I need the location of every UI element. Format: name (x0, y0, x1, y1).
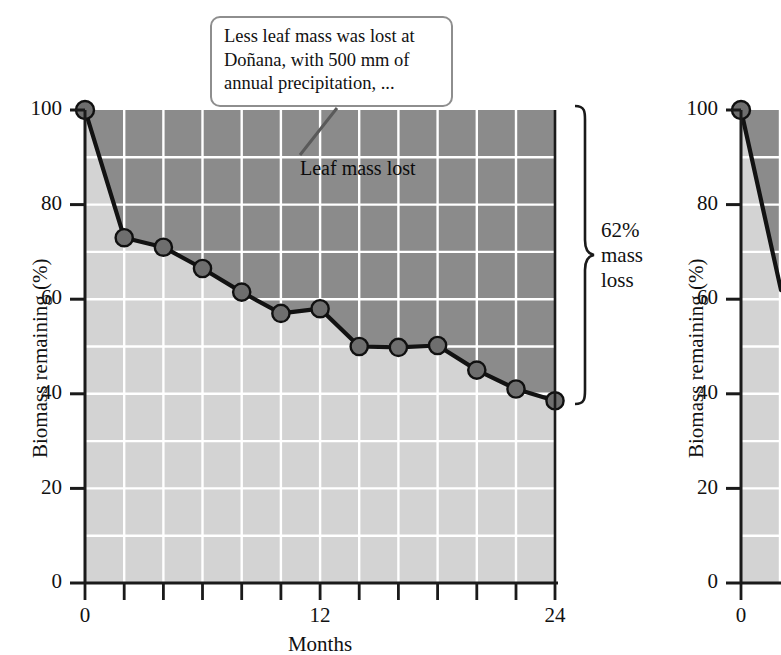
mass-loss-brace-label: 62% mass loss (601, 218, 643, 292)
x-tick-label-24: 24 (530, 605, 580, 626)
data-point (155, 239, 172, 256)
x-axis-ticks (85, 583, 555, 600)
x-axis-title: Months (255, 632, 385, 655)
callout-line-1: Less leaf mass was lost at (224, 25, 439, 49)
brace-label-line-1: 62% (601, 218, 643, 243)
y-axis-title: Biomass remaining (%) (684, 259, 709, 458)
data-point (468, 362, 485, 379)
x-tick-label-12: 12 (295, 605, 345, 626)
callout-donana: Less leaf mass was lost at Doñana, with … (210, 16, 453, 107)
leaf-mass-lost-label: Leaf mass lost (300, 157, 416, 180)
data-point (390, 339, 407, 356)
y-axis-ticks (726, 110, 741, 583)
data-point (116, 229, 133, 246)
data-point (272, 305, 289, 322)
brace-label-line-3: loss (601, 268, 643, 293)
callout-line-2: Doñana, with 500 mm of (224, 49, 439, 73)
y-axis-title: Biomass remaining (%) (28, 259, 53, 458)
chart-panel-second-site: 100 80 60 40 20 0 0 Biomass remaining (%… (640, 0, 781, 648)
chart-panel-donana: 100 80 60 40 20 0 0 12 24 Months Biomass… (0, 0, 600, 648)
x-tick-label-0: 0 (716, 605, 766, 626)
data-point (429, 337, 446, 354)
data-point (233, 284, 250, 301)
brace-label-line-2: mass (601, 243, 643, 268)
y-tick-label-80: 80 (0, 193, 62, 214)
mass-loss-brace (575, 106, 594, 404)
y-axis-ticks (70, 110, 85, 583)
y-tick-label-0: 0 (656, 571, 718, 592)
callout-line-3: annual precipitation, ... (224, 72, 439, 96)
y-tick-label-100: 100 (656, 98, 718, 119)
y-tick-label-80: 80 (656, 193, 718, 214)
x-tick-label-0: 0 (60, 605, 110, 626)
data-point (351, 338, 368, 355)
y-tick-label-20: 20 (0, 477, 62, 498)
y-tick-label-0: 0 (0, 571, 62, 592)
data-point (194, 260, 211, 277)
y-tick-label-100: 100 (0, 98, 62, 119)
data-point (507, 380, 524, 397)
data-point (312, 300, 329, 317)
y-tick-label-20: 20 (656, 477, 718, 498)
